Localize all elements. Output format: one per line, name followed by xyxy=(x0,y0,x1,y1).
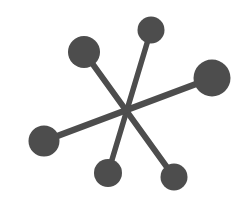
node-upper-left xyxy=(68,36,100,68)
clipart-canvas xyxy=(0,0,250,210)
node-right xyxy=(194,60,231,97)
edge-upper-left-bottom-right xyxy=(84,52,174,177)
node-top xyxy=(138,17,165,44)
node-bottom-right xyxy=(161,164,188,191)
node-left xyxy=(29,126,60,157)
jack-shape-figure xyxy=(0,0,250,210)
edge-right-left xyxy=(44,78,212,141)
node-bottom-center xyxy=(94,159,122,187)
figure-group xyxy=(29,17,231,191)
